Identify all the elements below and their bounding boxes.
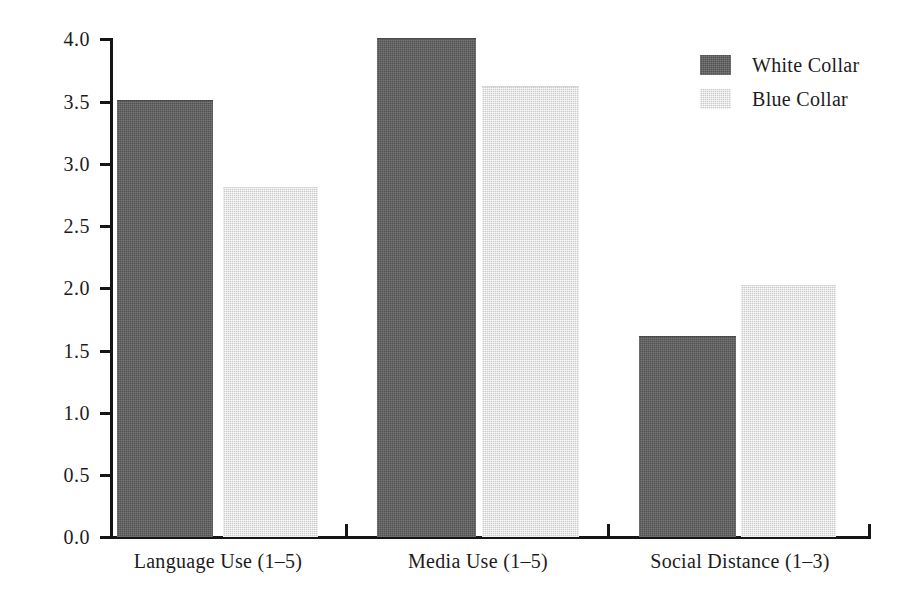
y-tick-label-0: 0.0: [24, 527, 90, 547]
x-category-label-language-use: Language Use (1–5): [108, 549, 328, 573]
legend-label-white-collar: White Collar: [752, 52, 859, 78]
legend-label-blue-collar: Blue Collar: [752, 86, 848, 112]
y-tick-label-4: 2.0: [24, 278, 90, 298]
x-category-label-social-distance: Social Distance (1–3): [625, 549, 855, 573]
y-tick-4: [100, 287, 113, 290]
y-tick-0: [100, 536, 113, 539]
y-tick-7: [100, 101, 113, 104]
legend: White Collar Blue Collar: [700, 52, 900, 120]
y-tick-label-8: 4.0: [24, 29, 90, 49]
legend-entry-blue-collar: Blue Collar: [700, 86, 900, 120]
bar-white-collar-media-use: [377, 38, 476, 537]
y-tick-2: [100, 412, 113, 415]
legend-swatch-white-collar: [700, 55, 731, 75]
y-tick-3: [100, 350, 113, 353]
bar-blue-collar-media-use: [482, 86, 579, 537]
x-tick-1: [345, 524, 348, 538]
y-tick-5: [100, 225, 113, 228]
y-tick-label-3: 1.5: [24, 341, 90, 361]
bar-white-collar-language-use: [117, 100, 213, 537]
x-tick-2: [607, 524, 610, 538]
y-tick-label-6: 3.0: [24, 154, 90, 174]
y-axis-tick-labels: 0.0 0.5 1.0 1.5 2.0 2.5 3.0 3.5 4.0: [20, 0, 90, 602]
y-tick-label-1: 0.5: [24, 465, 90, 485]
bar-blue-collar-social-distance: [741, 285, 836, 537]
y-tick-label-5: 2.5: [24, 216, 90, 236]
y-tick-label-2: 1.0: [24, 403, 90, 423]
legend-swatch-blue-collar: [700, 89, 731, 109]
bar-white-collar-social-distance: [639, 336, 736, 537]
bar-blue-collar-language-use: [223, 187, 318, 537]
y-tick-8: [100, 38, 113, 41]
y-tick-1: [100, 474, 113, 477]
x-category-label-media-use: Media Use (1–5): [368, 549, 588, 573]
y-tick-label-7: 3.5: [24, 92, 90, 112]
legend-entry-white-collar: White Collar: [700, 52, 900, 86]
x-axis-right-cap: [868, 524, 871, 539]
y-tick-6: [100, 163, 113, 166]
bar-chart: 0.0 0.5 1.0 1.5 2.0 2.5 3.0 3.5 4.0 Lang…: [0, 0, 909, 602]
